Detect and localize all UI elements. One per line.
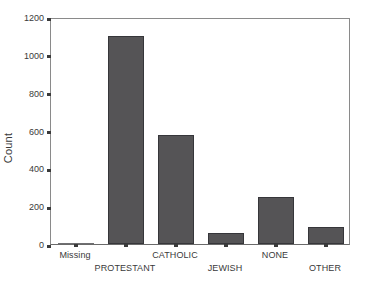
x-tick-mark: [124, 244, 128, 247]
x-axis-label: Missing: [59, 250, 90, 260]
bar: [258, 197, 294, 244]
y-tick-mark: [47, 18, 51, 21]
bar: [158, 135, 194, 244]
bar: [108, 36, 144, 244]
x-tick-mark: [74, 244, 78, 247]
y-tick-label: 200: [29, 202, 44, 212]
y-tick-label: 1200: [24, 13, 44, 23]
bar: [308, 227, 344, 244]
y-axis-title: Count: [2, 108, 14, 188]
y-tick-mark: [47, 131, 51, 134]
x-axis-label: NONE: [262, 250, 288, 260]
x-tick-mark: [274, 244, 278, 247]
bar-chart: Count 020040060080010001200 MissingPROTE…: [0, 0, 365, 296]
plot-area: 020040060080010001200: [50, 18, 350, 245]
y-tick-label: 0: [39, 240, 44, 250]
y-tick-mark: [47, 93, 51, 96]
x-tick-mark: [324, 244, 328, 247]
y-tick-mark: [47, 169, 51, 172]
y-tick-label: 600: [29, 127, 44, 137]
x-tick-mark: [174, 244, 178, 247]
x-axis-label: OTHER: [309, 263, 341, 273]
x-axis-label: PROTESTANT: [95, 263, 156, 273]
bar: [208, 233, 244, 244]
y-tick-label: 1000: [24, 51, 44, 61]
x-tick-mark: [224, 244, 228, 247]
y-tick-label: 800: [29, 89, 44, 99]
y-tick-mark: [47, 207, 51, 210]
x-axis-label: CATHOLIC: [152, 250, 198, 260]
y-tick-mark: [47, 55, 51, 58]
y-tick-label: 400: [29, 164, 44, 174]
y-tick-mark: [47, 245, 51, 248]
x-axis-label: JEWISH: [208, 263, 243, 273]
